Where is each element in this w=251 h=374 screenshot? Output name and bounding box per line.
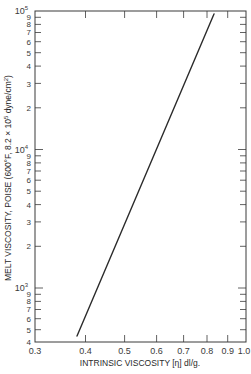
- x-tick-label: 0.6: [150, 346, 163, 356]
- y-minor-label: 7: [27, 305, 32, 314]
- plot-frame: [35, 11, 246, 342]
- y-axis-minor-labels-bot: 9 8 7 6 5 4: [27, 290, 32, 347]
- x-tick-label: 1.0: [238, 346, 251, 356]
- y-minor-label: 6: [27, 315, 32, 324]
- y-minor-label: 5: [27, 49, 32, 58]
- chart-svg: 0.3 0.4 0.5 0.6 0.7 0.8 0.9 1.0 INTRINSI…: [0, 0, 251, 374]
- y-minor-label: 4: [27, 62, 32, 71]
- x-tick-label: 0.4: [79, 346, 92, 356]
- x-tick-label: 0.7: [177, 346, 190, 356]
- x-axis-title: INTRINSIC VISCOSITY [η] dl/g.: [80, 358, 200, 368]
- y-minor-label: 3: [27, 80, 32, 89]
- y-minor-label: 3: [27, 218, 32, 227]
- y-minor-label: 5: [27, 326, 32, 335]
- y-minor-label: 5: [27, 187, 32, 196]
- x-axis-ticks: [86, 11, 228, 342]
- y-axis-minor-labels-top: 9 8 7 6 5 4 3 2: [27, 13, 32, 113]
- x-tick-label: 0.9: [221, 346, 234, 356]
- x-tick-label: 0.3: [29, 346, 42, 356]
- data-line: [77, 14, 214, 336]
- x-tick-label: 0.8: [201, 346, 214, 356]
- y-axis-minor-labels-mid: 9 8 7 6 5 4 3 2: [27, 152, 32, 252]
- x-axis-labels: 0.3 0.4 0.5 0.6 0.7 0.8 0.9 1.0: [29, 346, 251, 356]
- y-minor-label: 4: [27, 201, 32, 210]
- x-tick-label: 0.5: [118, 346, 131, 356]
- y-axis-title: MELT VISCOSITY, POISE (600°F, 8.2 × 105 …: [3, 75, 13, 281]
- y-minor-label: 6: [27, 38, 32, 47]
- y-minor-label: 2: [27, 104, 32, 113]
- y-axis-ticks: [35, 17, 246, 329]
- y-minor-label: 7: [27, 28, 32, 37]
- y-minor-label: 2: [27, 242, 32, 251]
- y-minor-label: 6: [27, 176, 32, 185]
- y-minor-label: 7: [27, 167, 32, 176]
- y-minor-label: 4: [27, 338, 32, 347]
